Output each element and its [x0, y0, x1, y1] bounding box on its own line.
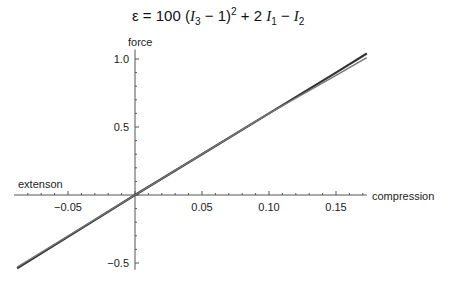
y-tick-label: −0.5 — [107, 257, 129, 269]
y-tick-label: 0.5 — [114, 121, 129, 133]
x-axis-label-right: compression — [372, 190, 434, 202]
x-tick-label: −0.05 — [54, 201, 82, 213]
data-series-line — [17, 58, 367, 267]
y-tick-label: 1.0 — [114, 53, 129, 65]
x-axis-label-left: extenson — [18, 178, 63, 190]
x-tick-label: 0.10 — [258, 201, 279, 213]
y-axis-label: force — [128, 36, 152, 48]
plot-area: −0.050.050.100.15−0.50.51.0forceextenson… — [0, 0, 455, 287]
x-tick-label: 0.15 — [325, 201, 346, 213]
x-tick-label: 0.05 — [191, 201, 212, 213]
